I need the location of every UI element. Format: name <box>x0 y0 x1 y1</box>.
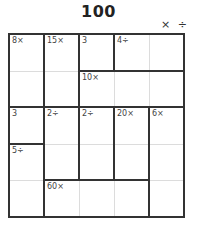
grid-cell[interactable] <box>149 144 184 180</box>
grid-cell[interactable] <box>9 180 44 217</box>
cage-border <box>113 106 115 145</box>
cage-clue: 8× <box>12 37 24 45</box>
cage-border <box>148 143 150 181</box>
cage-border <box>113 216 150 218</box>
cage-border <box>43 33 45 72</box>
cage-clue: 5÷ <box>12 147 24 155</box>
cage-border <box>148 70 185 72</box>
cage-clue: 2÷ <box>82 110 94 118</box>
cage-border <box>8 106 10 145</box>
cage-border <box>43 33 80 35</box>
cage-clue: 3 <box>12 110 17 118</box>
cage-border <box>148 106 185 108</box>
cage-border <box>113 33 150 35</box>
cage-border <box>113 70 150 72</box>
cage-border <box>43 70 45 108</box>
cage-clue: 4÷ <box>117 37 129 45</box>
grid-cell[interactable] <box>79 180 114 217</box>
grid-cell[interactable] <box>9 71 44 107</box>
grid-cell[interactable] <box>44 144 79 180</box>
cage-border <box>43 143 45 181</box>
cage-border <box>78 70 115 72</box>
cage-border <box>183 106 185 145</box>
grid-cell[interactable] <box>114 180 149 217</box>
cage-border <box>183 70 185 108</box>
kenken-grid: 8×15×34÷10×32÷2÷20×6×5÷60× <box>9 34 184 217</box>
cage-border <box>78 179 115 181</box>
cage-border <box>43 179 45 218</box>
cage-border <box>78 106 115 108</box>
cage-border <box>148 179 150 218</box>
cage-border <box>43 106 45 145</box>
cage-border <box>8 33 10 72</box>
grid-cell[interactable] <box>44 71 79 107</box>
grid-cell[interactable] <box>149 180 184 217</box>
cage-border <box>113 179 150 181</box>
cage-border <box>8 33 45 35</box>
cage-clue: 6× <box>152 110 164 118</box>
cage-clue: 15× <box>47 37 64 45</box>
cage-clue: 60× <box>47 183 64 191</box>
cage-border <box>148 216 185 218</box>
cage-clue: 10× <box>82 74 99 82</box>
cage-border <box>183 143 185 181</box>
cage-border <box>8 216 45 218</box>
cage-border <box>78 33 80 72</box>
cage-border <box>43 179 80 181</box>
cage-border <box>183 179 185 218</box>
operations-label: × ÷ <box>161 18 189 31</box>
cage-clue: 20× <box>117 110 134 118</box>
cage-border <box>8 70 10 108</box>
cage-border <box>113 33 115 72</box>
cage-border <box>78 143 80 181</box>
cage-border <box>78 106 80 145</box>
cage-border <box>8 179 10 218</box>
cage-border <box>43 216 80 218</box>
grid-cell[interactable] <box>114 144 149 180</box>
cage-border <box>78 216 115 218</box>
cage-border <box>113 106 150 108</box>
cage-clue: 3 <box>82 37 87 45</box>
grid-cell[interactable] <box>149 34 184 71</box>
grid-cell[interactable] <box>79 144 114 180</box>
cage-border <box>113 143 115 181</box>
cage-border <box>148 106 150 145</box>
cage-border <box>8 143 45 145</box>
cage-clue: 2÷ <box>47 110 59 118</box>
cage-border <box>8 143 10 181</box>
cage-border <box>78 70 80 108</box>
grid-cell[interactable] <box>114 71 149 107</box>
grid-cell[interactable] <box>149 71 184 107</box>
cage-border <box>8 106 45 108</box>
cage-border <box>78 33 115 35</box>
cage-border <box>148 33 185 35</box>
cage-border <box>43 106 80 108</box>
cage-border <box>183 33 185 72</box>
